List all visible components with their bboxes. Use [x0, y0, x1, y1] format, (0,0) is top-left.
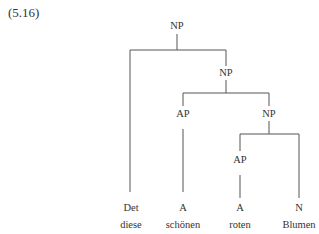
node-a-1: A: [179, 202, 187, 213]
node-a-2: A: [236, 202, 244, 213]
word-roten: roten: [229, 219, 251, 230]
node-det: Det: [123, 202, 138, 213]
node-np-2: NP: [219, 67, 233, 78]
word-schoenen: schönen: [166, 219, 201, 230]
syntax-tree: NP NP AP NP AP Det A A N diese schönen r…: [0, 0, 319, 234]
word-blumen: Blumen: [282, 219, 316, 230]
node-ap-2: AP: [233, 154, 247, 165]
node-np-3: NP: [262, 108, 276, 119]
word-diese: diese: [120, 219, 142, 230]
node-ap-1: AP: [176, 108, 190, 119]
node-n: N: [295, 202, 303, 213]
node-np-root: NP: [170, 20, 184, 31]
